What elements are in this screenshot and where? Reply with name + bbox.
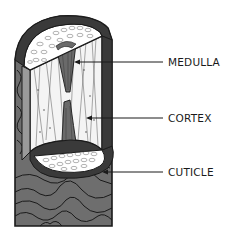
label-cuticle: CUTICLE (168, 166, 214, 178)
label-medulla: MEDULLA (168, 56, 221, 68)
label-cortex: CORTEX (168, 112, 212, 124)
hair-structure-diagram: MEDULLA CORTEX CUTICLE (0, 0, 240, 239)
